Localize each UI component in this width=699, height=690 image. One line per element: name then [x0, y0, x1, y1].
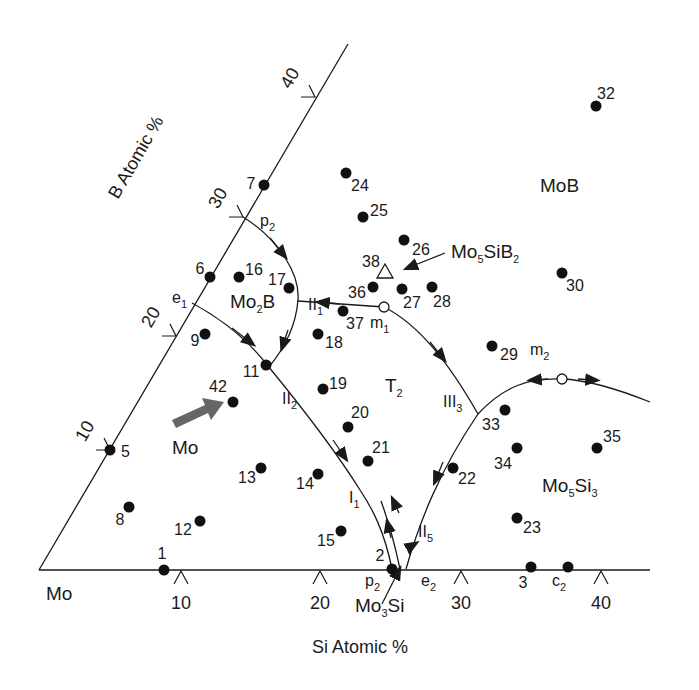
sample-label: 8: [116, 511, 125, 528]
sample-label: 18: [325, 334, 343, 351]
sample-point: [448, 463, 459, 474]
curve-e1-II2: [192, 303, 392, 569]
b-tick-mark: [301, 85, 315, 97]
sample-point: [318, 384, 329, 395]
sample-label: 1: [158, 545, 167, 562]
phase-label-t2: T2: [385, 375, 403, 399]
si-tick-label: 10: [171, 593, 191, 613]
sample-label: 22: [458, 470, 476, 487]
arrow-II1: [322, 303, 340, 305]
invariant-label-iii3: III3: [443, 393, 462, 414]
invariant-label-c2: c2: [552, 572, 566, 593]
b-tick-label: 20: [137, 303, 164, 330]
sample-point: [526, 562, 537, 573]
sample-label: 9: [191, 332, 200, 349]
ternary-phase-diagram: 10203040 10203040 123567: [0, 0, 699, 690]
sample-point: [427, 282, 438, 293]
arrow-III3: [430, 342, 442, 357]
sample-label: 36: [348, 284, 366, 301]
b-tick-label: 40: [276, 64, 303, 91]
sample-label: 33: [482, 416, 500, 433]
sample-point: [512, 443, 523, 454]
mo-bold-arrow-icon: [172, 398, 224, 428]
sample-point: [256, 463, 267, 474]
sample-point: [500, 405, 511, 416]
sample-point: [159, 565, 170, 576]
special-points: 38: [362, 253, 567, 384]
phase-label-mo2b: Mo2B: [230, 291, 275, 315]
phase-label-mob: MoB: [540, 175, 579, 196]
sample-label: 13: [238, 469, 256, 486]
sample-point: [512, 513, 523, 524]
invariant-label-ii1: II1: [308, 296, 323, 317]
si-tick-mark: [594, 571, 608, 584]
sample-point: [234, 272, 245, 283]
phase-label-mo5sib2: Mo5SiB2: [451, 241, 519, 265]
diagram-labels: MoBMo2BT2Mo5Si3MoMo5SiB2Mo3Sie1p2p2e2c2m…: [172, 175, 598, 619]
sample-point: [358, 212, 369, 223]
arrow-p2-mo2b: [270, 238, 283, 254]
sample-label: 11: [243, 363, 260, 380]
invariant-label-m2: m2: [530, 341, 549, 362]
sample-point: [487, 341, 498, 352]
sample-label: 5: [121, 443, 130, 460]
sample-label: 23: [523, 519, 541, 536]
sample-point: [205, 272, 216, 283]
invariant-label-e2: e2: [421, 572, 436, 593]
sample-point: [368, 282, 379, 293]
sample-point: [336, 526, 347, 537]
sample-point: [397, 284, 408, 295]
sample-point: [592, 443, 603, 454]
sample-label: 12: [174, 521, 192, 538]
sample-label: 37: [346, 315, 364, 332]
sample-point: [228, 397, 239, 408]
sample-point: [313, 329, 324, 340]
si-tick-label: 40: [591, 593, 611, 613]
arrow-II2: [333, 440, 344, 456]
sample-point: [200, 329, 211, 340]
sample-label: 20: [351, 404, 369, 421]
sample-label: 7: [247, 175, 256, 192]
m2-open-point: [557, 374, 567, 384]
sample-point: [563, 562, 574, 573]
sample-label: 3: [519, 574, 528, 591]
sample-label: 27: [403, 294, 421, 311]
sample-label-38: 38: [362, 253, 380, 270]
si-tick-mark: [313, 571, 327, 584]
arrow-e1: [232, 328, 250, 342]
sample-point: [399, 235, 410, 246]
sample-label: 34: [494, 455, 512, 472]
sample-label: 42: [209, 378, 227, 395]
invariant-label-m1: m1: [370, 314, 389, 335]
arrow-I1-b: [394, 502, 399, 513]
phase-label-mo5si3: Mo5Si3: [542, 475, 598, 499]
si-tick-mark: [454, 571, 468, 584]
b-tick-mark: [229, 205, 243, 217]
sample-label: 32: [597, 85, 615, 102]
sample-point: [261, 360, 272, 371]
invariant-label-e1: e1: [172, 289, 187, 310]
invariant-label-ii5: II5: [418, 523, 433, 544]
b-tick-label: 30: [204, 184, 231, 211]
sample-point: [363, 456, 374, 467]
sample-point: [195, 516, 206, 527]
si-tick-mark: [174, 571, 188, 584]
si-axis-title: Si Atomic %: [312, 637, 408, 657]
sample-label: 17: [268, 271, 286, 288]
sample-points: 1235678911121314151617181920212223242526…: [105, 85, 621, 591]
sample-point: [591, 101, 602, 112]
si-tick-label: 30: [451, 593, 471, 613]
sample-point: [124, 502, 135, 513]
sample-label: 24: [351, 177, 369, 194]
invariant-label-p2-bottom: p2: [365, 572, 380, 593]
arrow-m2-right: [578, 379, 593, 380]
invariant-label-p2-top: p2: [260, 212, 275, 233]
sample-label: 19: [329, 375, 347, 392]
sample-point: [343, 422, 354, 433]
sample-label: 15: [317, 532, 335, 549]
sample-label: 28: [433, 293, 451, 310]
sample-label: 25: [370, 202, 388, 219]
sample-label: 6: [196, 260, 205, 277]
b-tick-label: 10: [71, 417, 98, 444]
b-axis-title: B Atomic %: [104, 112, 167, 202]
